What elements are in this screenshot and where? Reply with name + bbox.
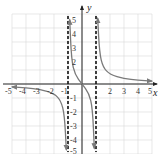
x-axis-label: x [152,87,158,98]
y-tick-4: 4 [72,30,76,39]
x-tick-neg1: -1 [61,87,68,96]
x-tick-neg3: -3 [33,87,40,96]
x-tick-neg4: -4 [19,87,26,96]
x-tick-neg5: -5 [5,87,12,96]
y-tick-3: 3 [72,44,76,53]
x-tick-2: 2 [108,87,112,96]
y-tick-5: 5 [72,16,76,25]
y-tick-neg1: -1 [70,94,77,103]
curve-right-branch [98,18,152,81]
y-tick-neg5: -5 [70,147,77,154]
y-tick-2: 2 [72,58,76,67]
y-tick-neg2: -2 [70,108,77,117]
x-tick-neg2: -2 [47,87,54,96]
function-graph: y x -5 -4 -3 -2 -1 2 3 4 5 5 4 3 2 -1 -2… [0,0,159,154]
x-tick-3: 3 [122,87,126,96]
x-tick-4: 4 [136,87,140,96]
y-tick-neg4: -4 [70,136,77,145]
curve-left-branch [12,87,66,150]
x-tick-5: 5 [148,87,152,96]
y-tick-neg3: -3 [70,122,77,131]
y-axis-label: y [86,2,92,13]
